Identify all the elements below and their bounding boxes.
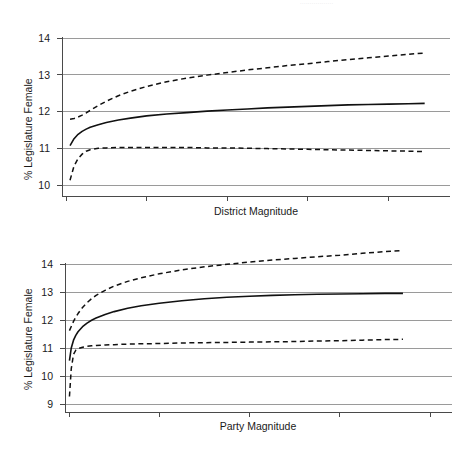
chart-party-magnitude: 91011121314020406080 Party Magnitude % L…: [0, 230, 455, 466]
y-tick-label-13: 13: [38, 69, 50, 81]
y-tick-label-12: 12: [41, 314, 53, 326]
y-axis-title-party-magnitude: % Legislature Female: [22, 288, 34, 390]
chart-district-magnitude: 1011121314020406080 District Magnitude %…: [0, 8, 455, 230]
y-tick-label-9: 9: [47, 398, 53, 410]
y-tick-label-12: 12: [38, 105, 50, 117]
series-line-dashed-2: [70, 148, 425, 181]
y-tick-label-11: 11: [39, 142, 50, 154]
page-header-text: ·················: [300, 0, 450, 8]
series-line-solid-1: [70, 103, 425, 145]
x-tick-label-80: 80: [383, 202, 395, 203]
x-tick-label-0: 0: [63, 202, 69, 203]
x-tick-label-20: 20: [141, 202, 153, 203]
y-axis-title-district-magnitude: % Legislature Female: [22, 78, 34, 180]
x-tick-label-40: 40: [221, 202, 233, 203]
y-tick-label-13: 13: [41, 286, 53, 298]
y-tick-label-14: 14: [41, 258, 53, 270]
series-line-solid-1: [69, 293, 403, 360]
district-magnitude-plot: 1011121314020406080: [0, 8, 455, 203]
y-tick-label-14: 14: [38, 32, 50, 44]
party-magnitude-plot: 91011121314020406080: [0, 230, 455, 418]
y-tick-label-10: 10: [41, 370, 53, 382]
series-line-dashed-0: [69, 251, 403, 331]
x-axis-title-district-magnitude: District Magnitude: [62, 205, 450, 217]
x-axis-title-party-magnitude: Party Magnitude: [62, 420, 454, 432]
x-tick-label-60: 60: [302, 202, 314, 203]
y-tick-label-11: 11: [42, 342, 53, 354]
y-tick-label-10: 10: [38, 179, 50, 191]
